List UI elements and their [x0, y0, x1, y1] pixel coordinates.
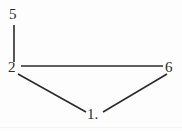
node-label-5: 5	[9, 7, 17, 22]
graph-figure: 5 2 6 1.	[0, 0, 182, 131]
bottom-edge-artifact	[0, 127, 182, 128]
node-label-2: 2	[8, 60, 16, 75]
node-label-1: 1.	[87, 107, 98, 122]
edge-2-1	[18, 74, 86, 112]
node-label-6: 6	[165, 60, 173, 75]
edge-1-6	[103, 74, 167, 112]
